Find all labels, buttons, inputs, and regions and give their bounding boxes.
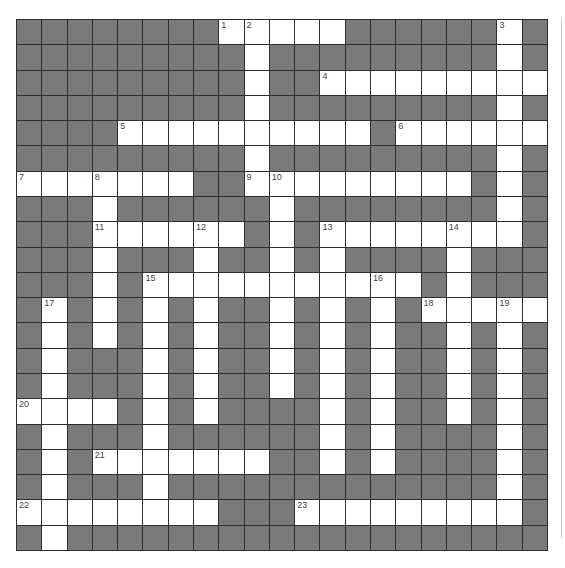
answer-cell[interactable] [194, 349, 218, 373]
answer-cell[interactable] [42, 349, 66, 373]
answer-cell[interactable] [371, 71, 395, 95]
answer-cell[interactable] [270, 121, 294, 145]
answer-cell[interactable] [472, 121, 496, 145]
answer-cell[interactable] [497, 146, 521, 170]
answer-cell[interactable] [143, 500, 167, 524]
answer-cell[interactable] [346, 71, 370, 95]
answer-cell[interactable] [219, 450, 243, 474]
answer-cell[interactable] [497, 323, 521, 347]
answer-cell[interactable]: 8 [93, 172, 117, 196]
answer-cell[interactable] [194, 500, 218, 524]
answer-cell[interactable]: 5 [118, 121, 142, 145]
answer-cell[interactable] [42, 475, 66, 499]
answer-cell[interactable] [447, 500, 471, 524]
answer-cell[interactable] [68, 399, 92, 423]
answer-cell[interactable] [42, 425, 66, 449]
answer-cell[interactable] [295, 20, 319, 44]
answer-cell[interactable] [143, 374, 167, 398]
answer-cell[interactable] [270, 349, 294, 373]
answer-cell[interactable] [270, 222, 294, 246]
answer-cell[interactable] [320, 172, 344, 196]
answer-cell[interactable] [447, 248, 471, 272]
answer-cell[interactable] [68, 172, 92, 196]
answer-cell[interactable] [497, 374, 521, 398]
answer-cell[interactable] [169, 222, 193, 246]
answer-cell[interactable]: 7 [17, 172, 41, 196]
answer-cell[interactable]: 21 [93, 450, 117, 474]
answer-cell[interactable] [371, 374, 395, 398]
answer-cell[interactable] [270, 248, 294, 272]
answer-cell[interactable] [245, 45, 269, 69]
answer-cell[interactable] [270, 197, 294, 221]
answer-cell[interactable] [295, 121, 319, 145]
answer-cell[interactable] [447, 273, 471, 297]
answer-cell[interactable] [270, 273, 294, 297]
answer-cell[interactable] [472, 500, 496, 524]
answer-cell[interactable] [422, 172, 446, 196]
answer-cell[interactable] [371, 222, 395, 246]
answer-cell[interactable] [371, 450, 395, 474]
answer-cell[interactable] [320, 323, 344, 347]
answer-cell[interactable] [320, 425, 344, 449]
answer-cell[interactable] [447, 298, 471, 322]
answer-cell[interactable] [497, 197, 521, 221]
answer-cell[interactable] [497, 45, 521, 69]
answer-cell[interactable] [320, 450, 344, 474]
answer-cell[interactable] [194, 248, 218, 272]
answer-cell[interactable] [396, 222, 420, 246]
answer-cell[interactable] [194, 399, 218, 423]
answer-cell[interactable] [346, 121, 370, 145]
answer-cell[interactable] [497, 450, 521, 474]
answer-cell[interactable]: 19 [497, 298, 521, 322]
answer-cell[interactable] [118, 450, 142, 474]
answer-cell[interactable] [42, 399, 66, 423]
answer-cell[interactable] [396, 172, 420, 196]
answer-cell[interactable] [320, 399, 344, 423]
answer-cell[interactable] [194, 273, 218, 297]
answer-cell[interactable]: 18 [422, 298, 446, 322]
answer-cell[interactable] [42, 500, 66, 524]
answer-cell[interactable] [422, 71, 446, 95]
answer-cell[interactable] [143, 349, 167, 373]
answer-cell[interactable] [143, 323, 167, 347]
answer-cell[interactable] [371, 172, 395, 196]
answer-cell[interactable] [169, 450, 193, 474]
answer-cell[interactable] [194, 374, 218, 398]
answer-cell[interactable] [523, 298, 547, 322]
answer-cell[interactable] [118, 500, 142, 524]
answer-cell[interactable] [523, 71, 547, 95]
answer-cell[interactable] [320, 349, 344, 373]
answer-cell[interactable] [320, 273, 344, 297]
answer-cell[interactable] [447, 323, 471, 347]
answer-cell[interactable] [169, 172, 193, 196]
answer-cell[interactable]: 3 [497, 20, 521, 44]
answer-cell[interactable] [42, 526, 66, 550]
answer-cell[interactable] [371, 399, 395, 423]
answer-cell[interactable] [346, 500, 370, 524]
answer-cell[interactable] [68, 500, 92, 524]
answer-cell[interactable]: 9 [245, 172, 269, 196]
answer-cell[interactable] [447, 399, 471, 423]
answer-cell[interactable] [143, 425, 167, 449]
answer-cell[interactable] [396, 273, 420, 297]
answer-cell[interactable] [497, 222, 521, 246]
answer-cell[interactable] [472, 298, 496, 322]
answer-cell[interactable] [472, 222, 496, 246]
answer-cell[interactable] [270, 323, 294, 347]
answer-cell[interactable] [422, 222, 446, 246]
answer-cell[interactable] [143, 475, 167, 499]
answer-cell[interactable] [118, 172, 142, 196]
answer-cell[interactable]: 6 [396, 121, 420, 145]
answer-cell[interactable] [42, 450, 66, 474]
answer-cell[interactable] [320, 121, 344, 145]
answer-cell[interactable] [320, 248, 344, 272]
answer-cell[interactable] [320, 500, 344, 524]
answer-cell[interactable] [497, 475, 521, 499]
answer-cell[interactable] [169, 121, 193, 145]
answer-cell[interactable] [422, 500, 446, 524]
answer-cell[interactable] [523, 121, 547, 145]
answer-cell[interactable] [143, 222, 167, 246]
answer-cell[interactable] [346, 172, 370, 196]
answer-cell[interactable] [245, 71, 269, 95]
answer-cell[interactable] [219, 222, 243, 246]
